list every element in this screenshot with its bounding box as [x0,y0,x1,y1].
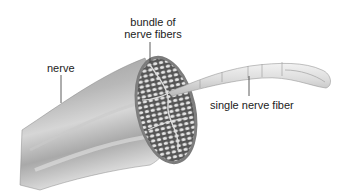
bundle-label-line2: nerve fibers [122,28,184,40]
nerve-label: nerve [47,62,75,74]
nerve-diagram: bundle of nerve fibers nerve single nerv… [0,0,357,193]
bundle-label-line1: bundle of [122,16,184,28]
single-fiber-label: single nerve fiber [210,99,294,111]
bundle-label: bundle of nerve fibers [122,16,184,40]
